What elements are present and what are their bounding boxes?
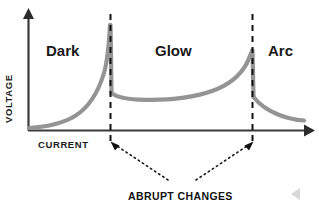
region-label-arc: Arc	[268, 42, 293, 59]
curve-segment-glow	[112, 63, 248, 100]
region-label-glow: Glow	[155, 42, 192, 59]
annotation-leader-left	[117, 146, 168, 180]
abrupt-changes-annotation: ABRUPT CHANGES	[128, 190, 233, 202]
y-axis-arrowhead	[23, 8, 34, 19]
curve-segment-arc	[254, 97, 305, 121]
x-axis-arrowhead	[304, 125, 315, 137]
annotation-arrowhead-left	[111, 142, 120, 151]
y-axis-label: VOLTAGE	[3, 74, 14, 123]
corner-play-marker-icon	[291, 188, 300, 200]
curve-segment-dark	[29, 25, 110, 128]
annotation-arrowhead-right	[245, 142, 254, 151]
region-label-dark: Dark	[46, 42, 79, 59]
figure-canvas: VOLTAGE CURRENT Dark Glow Arc ABRUPT CHA…	[0, 0, 319, 213]
x-axis-label: CURRENT	[38, 139, 89, 150]
chart-svg	[0, 0, 319, 213]
annotation-leader-right	[196, 146, 247, 180]
